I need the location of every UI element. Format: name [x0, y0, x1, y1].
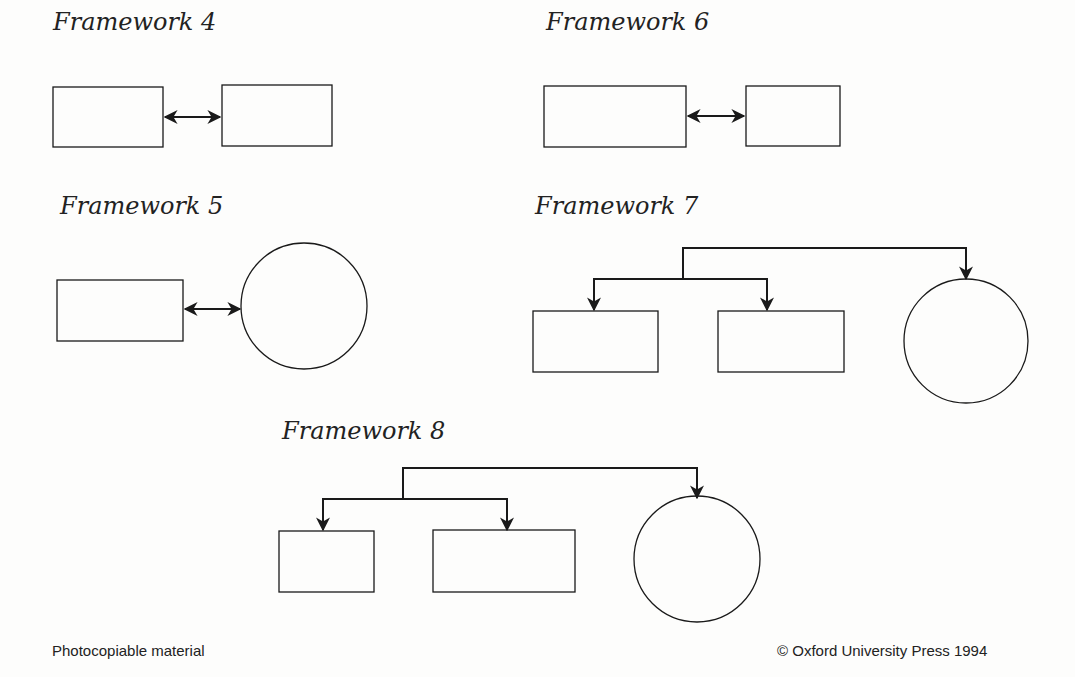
worksheet-page: Framework 4 Framework 6 Framework 5 Fram…	[0, 0, 1075, 677]
box	[53, 87, 163, 147]
box	[57, 280, 183, 341]
box	[746, 86, 840, 146]
copyright-note: © Oxford University Press 1994	[777, 642, 987, 659]
framework-diagrams	[0, 0, 1075, 677]
box	[279, 531, 374, 592]
framework-5-title: Framework 5	[60, 192, 223, 220]
photocopiable-note: Photocopiable material	[52, 642, 205, 659]
arrow-to-circle-icon	[403, 468, 697, 499]
framework-6-title: Framework 6	[546, 8, 709, 36]
framework-4-title: Framework 4	[53, 8, 216, 36]
circle	[241, 243, 367, 369]
arrow-to-circle-icon	[683, 248, 966, 279]
framework-8-title: Framework 8	[282, 417, 445, 445]
box	[718, 311, 844, 372]
box	[544, 86, 686, 147]
framework-7-title: Framework 7	[535, 192, 698, 220]
box	[533, 311, 658, 372]
box	[222, 85, 332, 146]
circle	[634, 496, 760, 622]
branch-line	[323, 499, 507, 530]
circle	[904, 279, 1028, 403]
branch-line	[594, 279, 767, 310]
box	[433, 530, 575, 592]
